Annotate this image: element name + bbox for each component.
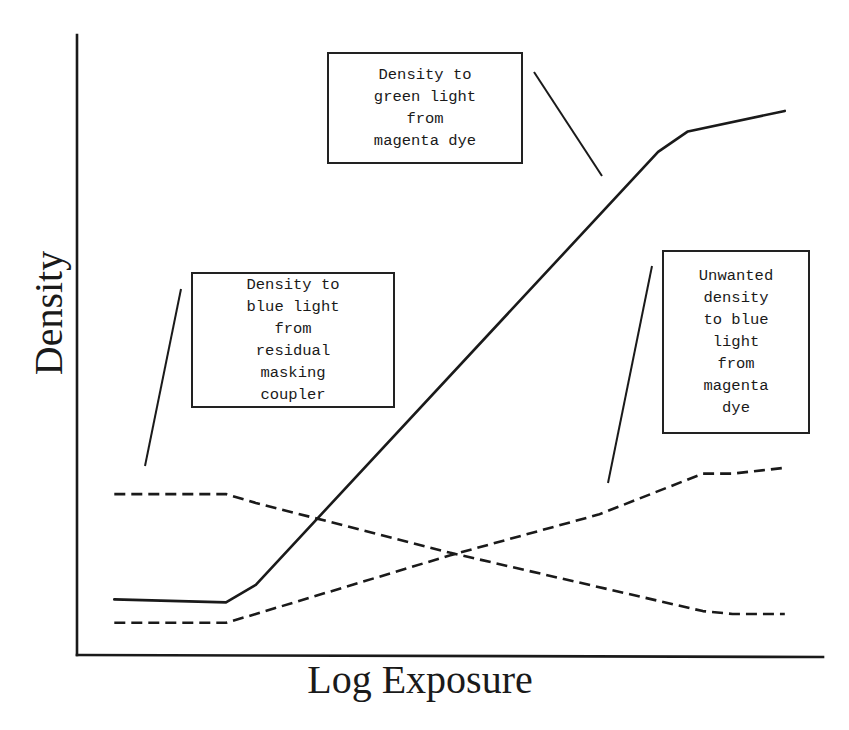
- annotation-line: Density to: [193, 274, 393, 296]
- annotation-line: magenta: [664, 375, 808, 397]
- annotation-line: to blue: [664, 309, 808, 331]
- annotation-line: residual: [193, 340, 393, 362]
- annotation-green-density: Density to green light from magenta dye: [327, 52, 523, 164]
- annotation-line: Density to: [329, 64, 521, 86]
- annotation-line: from: [664, 353, 808, 375]
- annotation-line: coupler: [193, 384, 393, 406]
- annotation-line: density: [664, 287, 808, 309]
- annotation-masking-coupler: Density to blue light from residual mask…: [191, 272, 395, 408]
- annotation-line: dye: [664, 397, 808, 419]
- leader-line-green: [534, 72, 602, 176]
- unwanted-blue-density-curve: [114, 468, 785, 623]
- annotation-line: from: [329, 108, 521, 130]
- x-axis-label: Log Exposure: [270, 656, 570, 703]
- annotation-line: blue light: [193, 296, 393, 318]
- annotation-line: magenta dye: [329, 130, 521, 152]
- leader-line-unwanted: [608, 266, 652, 483]
- annotation-line: light: [664, 331, 808, 353]
- y-axis-label: Density: [8, 218, 88, 408]
- leader-line-masking: [145, 289, 181, 466]
- masking-coupler-curve: [114, 494, 785, 614]
- y-axis-label-text: Density: [25, 251, 72, 375]
- annotation-unwanted-blue-density: Unwanted density to blue light from mage…: [662, 250, 810, 434]
- annotation-line: masking: [193, 362, 393, 384]
- annotation-line: from: [193, 318, 393, 340]
- annotation-line: Unwanted: [664, 265, 808, 287]
- annotation-line: green light: [329, 86, 521, 108]
